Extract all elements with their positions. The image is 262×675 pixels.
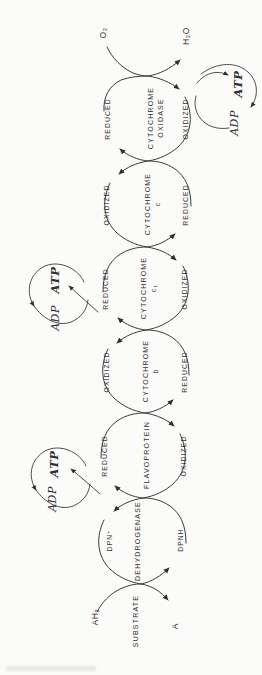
- node-cytochrome-c1: CYTOCHROME c₁: [139, 257, 158, 319]
- a-label: A: [171, 623, 181, 629]
- oxidized-label: OXIDIZED: [179, 436, 189, 477]
- adp-label: ADP: [51, 305, 61, 331]
- node-cytochrome-b: CYTOCHROME b: [141, 340, 160, 402]
- electron-transport-chain-diagram: O₂ H₂O CYTOCHROME OXIDASE REDUCED OXIDIZ…: [0, 0, 262, 675]
- node-dehydrogenase: DEHYDROGENASE: [133, 501, 143, 581]
- oxidized-label: OXIDIZED: [181, 99, 191, 140]
- atp-arrow: [69, 286, 98, 312]
- node-cytochrome-c: CYTOCHROME c: [143, 173, 162, 235]
- atp-loop-arc: [195, 96, 229, 129]
- node-label-line1: FLAVOPROTEIN: [142, 421, 152, 489]
- ah2-label: AH₂: [91, 609, 101, 626]
- electron-flow-curve: [101, 400, 173, 458]
- node-label-line1: DEHYDROGENASE: [133, 501, 143, 581]
- node-label-line2: c: [152, 173, 162, 235]
- atp-arrow: [71, 469, 100, 494]
- atp-label: ATP: [234, 71, 244, 98]
- reduced-label: REDUCED: [103, 98, 113, 139]
- o2-label: O₂: [99, 27, 109, 38]
- node-label-line1: CYTOCHROME: [139, 257, 149, 319]
- node-label-line1: CYTOCHROME: [146, 87, 156, 149]
- oxidized-label: OXIDIZED: [102, 352, 112, 393]
- electron-flow-curve: [103, 349, 174, 426]
- oxidized-label: OXIDIZED: [180, 269, 190, 310]
- node-cytochrome-oxidase: CYTOCHROME OXIDASE: [146, 87, 165, 149]
- reduced-label: REDUCED: [101, 268, 111, 309]
- dpn-plus-label: DPN⁺: [105, 529, 115, 552]
- electron-flow-curve: [105, 183, 176, 260]
- node-label-line1: CYTOCHROME: [143, 173, 153, 235]
- print-artifact: [6, 666, 96, 671]
- reduced-label: REDUCED: [180, 351, 190, 392]
- node-flavoprotein: FLAVOPROTEIN: [142, 421, 152, 489]
- adp-label: ADP: [230, 110, 240, 136]
- diagram-strokes: [0, 0, 262, 675]
- node-label-line1: CYTOCHROME: [141, 340, 151, 402]
- substrate-label: SUBSTRATE: [131, 595, 141, 647]
- h2o-label: H₂O: [182, 27, 192, 45]
- oxidized-label: OXIDIZED: [102, 185, 112, 226]
- node-label-line2: b: [150, 340, 160, 402]
- h2o-exit-curve: [104, 60, 180, 111]
- adp-label: ADP: [48, 486, 58, 512]
- atp-loop-arc: [36, 484, 90, 508]
- node-label-line2: c₁: [148, 257, 158, 319]
- atp-label: ATP: [50, 451, 60, 478]
- o2-entry-curve: [107, 47, 179, 89]
- node-label-line2: OXIDASE: [155, 87, 165, 149]
- reduced-label: REDUCED: [100, 435, 110, 476]
- reduced-label: REDUCED: [181, 184, 191, 225]
- atp-label: ATP: [51, 267, 61, 294]
- atp-loop-arc: [201, 64, 256, 107]
- dpnh-label: DPNH: [176, 528, 186, 552]
